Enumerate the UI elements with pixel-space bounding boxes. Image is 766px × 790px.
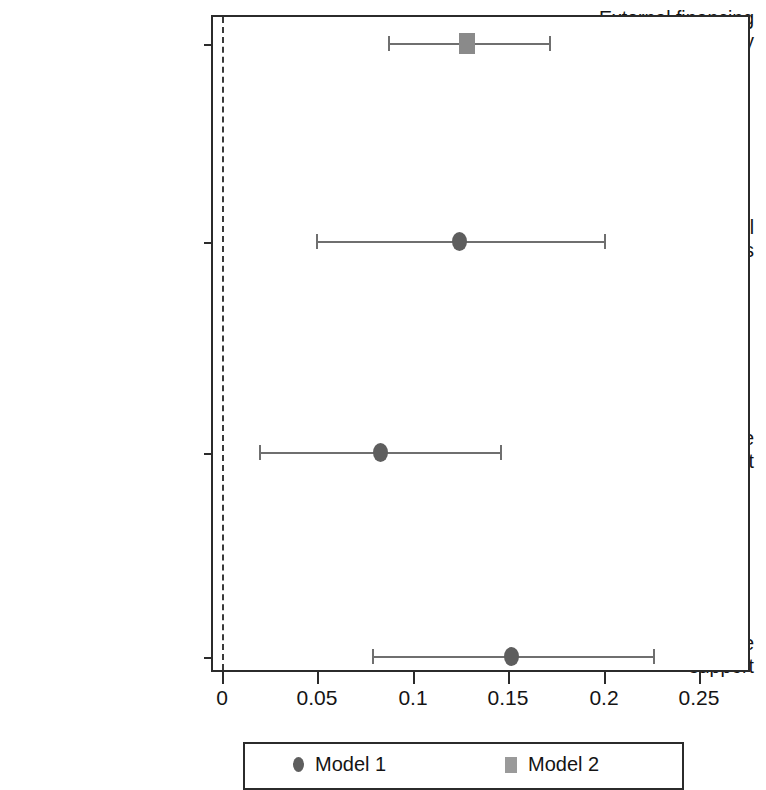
confidence-interval-cap-high xyxy=(500,445,502,460)
legend-item-model-2: Model 2 xyxy=(505,753,599,776)
x-axis-tick-4 xyxy=(604,672,606,684)
confidence-interval-cap-high xyxy=(549,36,551,51)
plot-area xyxy=(211,15,750,672)
legend: Model 1 Model 2 xyxy=(243,742,684,790)
x-axis-ticklabel-4: 0.2 xyxy=(564,686,644,710)
legend-item-label: Model 2 xyxy=(528,753,599,776)
x-axis-tick-5 xyxy=(699,672,701,684)
confidence-interval-cap-high xyxy=(653,649,655,664)
zero-reference-line xyxy=(222,17,224,670)
x-axis-ticklabel-5: 0.25 xyxy=(659,686,739,710)
x-axis-ticklabel-3: 0.15 xyxy=(468,686,548,710)
x-axis-tick-2 xyxy=(413,672,415,684)
y-axis-tick-0 xyxy=(204,44,213,46)
confidence-interval-cap-low xyxy=(372,649,374,664)
legend-item-label: Model 1 xyxy=(315,753,386,776)
legend-item-model-1: Model 1 xyxy=(293,753,386,776)
x-axis-tick-0 xyxy=(222,672,224,684)
confidence-interval-cap-low xyxy=(388,36,390,51)
x-axis-ticklabel-2: 0.1 xyxy=(373,686,453,710)
confidence-interval-cap-high xyxy=(604,234,606,249)
point-marker-model-2 xyxy=(459,33,475,54)
x-axis-tick-1 xyxy=(317,672,319,684)
x-axis-ticklabel-1: 0.05 xyxy=(277,686,357,710)
square-marker-icon xyxy=(505,757,517,773)
y-axis-tick-1 xyxy=(204,242,213,244)
point-marker-model-1 xyxy=(373,443,388,462)
y-axis-tick-3 xyxy=(204,657,213,659)
y-axis-tick-2 xyxy=(204,453,213,455)
x-axis-ticklabel-0: 0 xyxy=(182,686,262,710)
point-marker-model-1 xyxy=(452,232,467,251)
point-marker-model-1 xyxy=(504,647,519,666)
confidence-interval-cap-low xyxy=(316,234,318,249)
x-axis-tick-3 xyxy=(508,672,510,684)
confidence-interval-cap-low xyxy=(259,445,261,460)
circle-marker-icon xyxy=(293,757,304,772)
